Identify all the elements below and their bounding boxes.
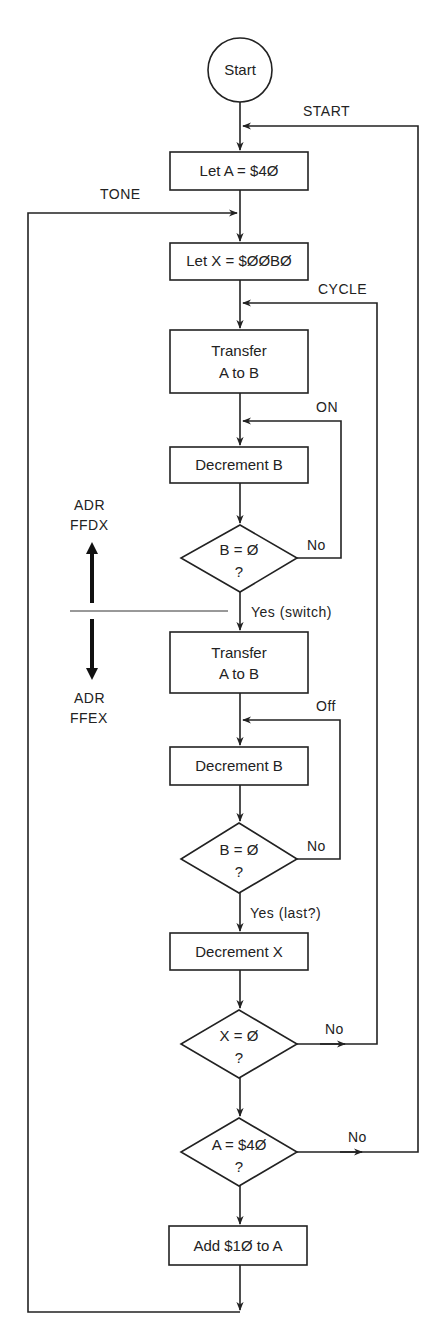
label-yes-switch: Yes (switch) <box>251 604 332 620</box>
node-check-b-2: B = Ø ? <box>181 823 297 893</box>
label-tone-loop: TONE <box>100 186 141 202</box>
label-off-loop: Off <box>316 698 336 714</box>
node-check-x-line2: ? <box>235 1049 243 1066</box>
label-no-4: No <box>348 1129 367 1145</box>
node-let-a: Let A = $4Ø <box>170 152 308 190</box>
flowchart-canvas: Start Let A = $4Ø Let X = $ØØBØ Transfer… <box>0 0 437 1328</box>
label-start-loop: START <box>303 103 350 119</box>
label-no-3: No <box>325 1021 344 1037</box>
node-check-b-1: B = Ø ? <box>181 525 297 592</box>
node-check-b-2-line2: ? <box>235 863 243 880</box>
node-check-a-line1: A = $4Ø <box>212 1136 267 1153</box>
node-start-label: Start <box>224 61 257 78</box>
label-adr-down-2: FFEX <box>70 710 108 726</box>
node-add-a-label: Add $1Ø to A <box>193 1237 282 1254</box>
node-check-b-2-line1: B = Ø <box>220 841 259 858</box>
node-transfer-1-line1: Transfer <box>211 342 266 359</box>
node-transfer-2-line1: Transfer <box>211 644 266 661</box>
node-transfer-1-line2: A to B <box>219 364 259 381</box>
node-check-b-1-line1: B = Ø <box>220 541 259 558</box>
node-decrement-x: Decrement X <box>170 933 308 970</box>
label-adr-down-1: ADR <box>74 690 105 706</box>
label-on-loop: ON <box>316 399 338 415</box>
node-let-x-label: Let X = $ØØBØ <box>186 252 292 269</box>
node-check-b-1-line2: ? <box>235 563 243 580</box>
node-let-a-label: Let A = $4Ø <box>200 162 279 179</box>
node-start: Start <box>208 38 272 102</box>
node-check-x-line1: X = Ø <box>220 1027 259 1044</box>
node-decrement-b-2-label: Decrement B <box>195 757 283 774</box>
label-cycle-loop: CYCLE <box>318 281 367 297</box>
node-check-x: X = Ø ? <box>181 1010 297 1078</box>
node-let-x: Let X = $ØØBØ <box>170 243 308 280</box>
label-no-2: No <box>307 838 326 854</box>
node-decrement-b-1: Decrement B <box>170 447 308 483</box>
node-decrement-b-1-label: Decrement B <box>195 456 283 473</box>
label-adr-up-2: FFDX <box>70 517 109 533</box>
node-transfer-1: Transfer A to B <box>170 330 308 393</box>
node-check-a: A = $4Ø ? <box>181 1118 297 1186</box>
node-decrement-x-label: Decrement X <box>195 943 283 960</box>
node-transfer-2-line2: A to B <box>219 665 259 682</box>
node-add-a: Add $1Ø to A <box>169 1226 307 1265</box>
node-transfer-2: Transfer A to B <box>170 632 308 693</box>
label-no-1: No <box>307 537 326 553</box>
node-check-a-line2: ? <box>235 1158 243 1175</box>
node-decrement-b-2: Decrement B <box>170 747 308 785</box>
label-yes-last: Yes (last?) <box>250 905 321 921</box>
label-adr-up-1: ADR <box>74 497 105 513</box>
